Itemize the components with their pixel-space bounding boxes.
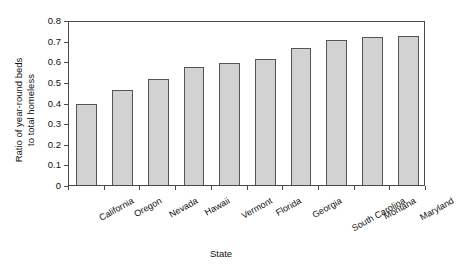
bar-series xyxy=(69,22,424,185)
x-axis-tick-mark xyxy=(425,186,426,190)
y-axis-tick-label: 0 xyxy=(35,181,61,191)
bar xyxy=(76,104,97,185)
x-axis-tick-mark xyxy=(68,186,69,190)
y-axis-tick-label: 0.8 xyxy=(35,16,61,26)
x-axis-tick-label: Oregon xyxy=(132,196,163,219)
x-axis-tick-mark xyxy=(282,186,283,190)
y-axis-tick-label: 0.1 xyxy=(35,160,61,170)
y-axis-tick-label: 0.3 xyxy=(35,119,61,129)
x-axis-tick-label: Florida xyxy=(274,196,303,218)
x-axis-tick-mark xyxy=(139,186,140,190)
x-axis-tick-label: Maryland xyxy=(418,196,455,223)
bar xyxy=(184,67,205,185)
plot-area xyxy=(68,21,425,186)
x-axis-tick-mark xyxy=(211,186,212,190)
x-axis-tick-mark xyxy=(247,186,248,190)
y-axis-tick-label: 0.7 xyxy=(35,37,61,47)
bar xyxy=(255,59,276,185)
bar xyxy=(291,48,312,185)
bar xyxy=(219,63,240,185)
x-axis-tick-mark xyxy=(175,186,176,190)
bar xyxy=(326,40,347,185)
x-axis-tick-mark xyxy=(389,186,390,190)
x-axis-tick-mark xyxy=(104,186,105,190)
x-axis-tick-label: Georgia xyxy=(311,196,344,220)
x-axis-title: State xyxy=(0,248,442,259)
y-axis-tick-label: 0.5 xyxy=(35,78,61,88)
bar xyxy=(112,90,133,185)
bar xyxy=(362,37,383,185)
x-axis-tick-mark xyxy=(318,186,319,190)
bar xyxy=(398,36,419,185)
x-axis-tick-label: Nevada xyxy=(168,196,200,220)
x-axis-tick-label: Vermont xyxy=(239,196,273,221)
y-axis-tick-label: 0.2 xyxy=(35,140,61,150)
x-axis-tick-label: California xyxy=(97,196,135,223)
y-axis-tick-label: 0.4 xyxy=(35,99,61,109)
y-axis-tick-label: 0.6 xyxy=(35,57,61,67)
bar xyxy=(148,79,169,185)
x-axis-tick-mark xyxy=(354,186,355,190)
x-axis-tick-label: Hawaii xyxy=(203,196,231,218)
y-axis-title-line1: Ratio of year-round beds xyxy=(13,25,25,195)
